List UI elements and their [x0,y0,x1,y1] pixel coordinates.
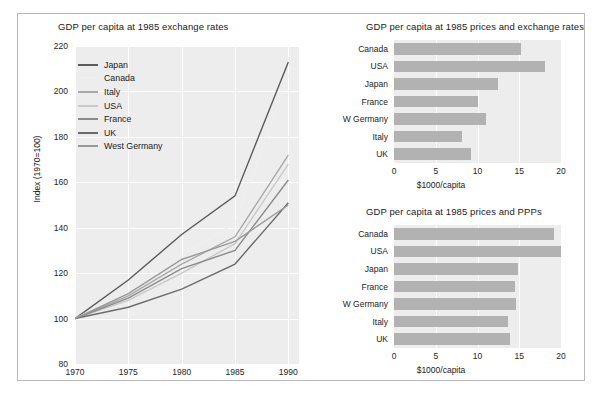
bar-category-label: UK [326,149,388,159]
line-chart-y-axis-title: Index (1970=100) [32,114,42,224]
legend-swatch [78,64,98,66]
figure-page: GDP per capita at 1985 exchange rates In… [0,0,601,411]
x-tick-label: 15 [515,351,524,361]
y-tick-label: 180 [28,132,68,142]
line-chart-title: GDP per capita at 1985 exchange rates [58,21,228,32]
legend-label: UK [104,128,116,138]
bar-category-label: W Germany [326,114,388,124]
gridline-vertical [519,40,520,163]
bar-category-label: Japan [326,79,388,89]
legend-swatch [78,145,98,147]
bar-category-label: Canada [326,44,388,54]
figure-frame: GDP per capita at 1985 exchange rates In… [17,13,585,381]
x-tick-label: 10 [473,351,482,361]
legend-item-japan: Japan [78,58,163,72]
legend-item-italy: Italy [78,85,163,99]
x-tick-label: 1975 [119,367,138,377]
legend-item-west-germany: West Germany [78,140,163,154]
y-tick-label: 80 [28,359,68,369]
bar-italy [394,131,462,143]
line-series-france [75,180,288,319]
legend-swatch [78,77,98,79]
x-tick-label: 5 [433,351,438,361]
bar-category-label: USA [326,246,388,256]
x-tick-label: 1980 [172,367,191,377]
bar-italy [394,316,508,328]
x-tick-label: 1990 [279,367,298,377]
legend-item-usa: USA [78,99,163,113]
legend-item-uk: UK [78,126,163,140]
bar-japan [394,78,498,90]
x-tick-label: 15 [515,166,524,176]
bar-category-label: Italy [326,317,388,327]
legend-item-france: France [78,112,163,126]
bar-chart-ppp-x-axis-title: $1000/capita [417,365,466,375]
bar-category-label: W Germany [326,299,388,309]
bar-category-label: UK [326,334,388,344]
x-tick-label: 1985 [226,367,245,377]
line-series-uk [75,203,288,319]
bar-category-label: Japan [326,264,388,274]
bar-category-label: Canada [326,229,388,239]
x-tick-label: 20 [556,166,565,176]
bar-chart-exchange-rates: GDP per capita at 1985 prices and exchan… [318,14,586,199]
bar-chart-ppp-title: GDP per capita at 1985 prices and PPPs [366,206,542,217]
y-tick-label: 140 [28,223,68,233]
bar-usa [394,246,561,258]
bar-category-label: France [326,97,388,107]
y-tick-label: 120 [28,268,68,278]
x-tick-label: 20 [556,351,565,361]
line-chart: GDP per capita at 1985 exchange rates In… [18,14,318,382]
legend-swatch [78,118,98,120]
bar-france [394,281,515,293]
x-tick-label: 1970 [66,367,85,377]
x-tick-label: 10 [473,166,482,176]
bar-chart-ppps: GDP per capita at 1985 prices and PPPs C… [318,199,586,382]
bar-uk [394,148,471,160]
bar-canada [394,43,521,55]
legend-swatch [78,91,98,93]
bar-chart-ppp-plot-area [394,225,561,348]
legend-item-canada: Canada [78,72,163,86]
legend-label: USA [104,101,122,111]
bar-w-germany [394,113,486,125]
bar-w-germany [394,298,516,310]
y-tick-label: 200 [28,86,68,96]
legend-label: West Germany [104,141,163,151]
legend-label: Japan [104,60,128,70]
legend-label: France [104,114,131,124]
line-chart-legend: JapanCanadaItalyUSAFranceUKWest Germany [78,58,163,153]
bar-chart-exchange-x-axis-title: $1000/capita [417,180,466,190]
bar-chart-exchange-plot-area [394,40,561,163]
gridline-vertical [519,225,520,348]
bar-uk [394,333,510,345]
bar-category-label: USA [326,61,388,71]
bar-france [394,96,478,108]
gridline-vertical [478,40,479,163]
bar-japan [394,263,518,275]
x-tick-label: 0 [392,351,397,361]
legend-label: Italy [104,87,120,97]
bar-chart-exchange-title: GDP per capita at 1985 prices and exchan… [366,21,584,32]
y-tick-label: 220 [28,41,68,51]
legend-label: Canada [104,73,135,83]
legend-swatch [78,132,98,134]
bar-category-label: Italy [326,132,388,142]
line-series-italy [75,155,288,319]
legend-swatch [78,105,98,107]
y-tick-label: 100 [28,314,68,324]
y-tick-label: 160 [28,177,68,187]
bar-canada [394,228,554,240]
bar-category-label: France [326,282,388,292]
x-tick-label: 0 [392,166,397,176]
x-tick-label: 5 [433,166,438,176]
bar-usa [394,61,545,73]
